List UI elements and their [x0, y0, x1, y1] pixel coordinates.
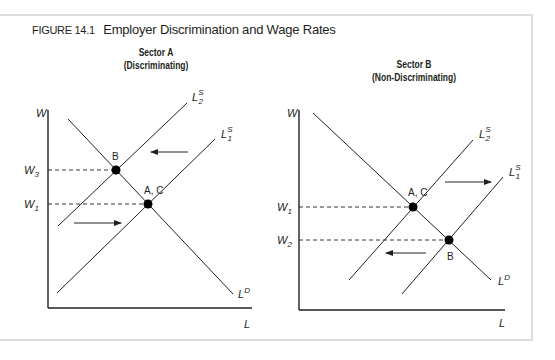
- panel-b-point-b-label: B: [447, 251, 454, 262]
- panel-b-supply-2-label: LS2: [479, 125, 491, 143]
- panel-b-chart: W L W1 W2 LS2 LS1 LD A, C B: [277, 107, 521, 329]
- panel-a-w3-label: W3: [24, 164, 39, 179]
- panel-a-point-ac: [144, 200, 153, 209]
- panel-a-supply-1-label: LS1: [221, 125, 233, 143]
- panel-b-x-label: L: [499, 317, 505, 329]
- panel-a-demand-label: LD: [238, 286, 250, 300]
- panel-b-w1-label: W1: [277, 201, 292, 216]
- panel-b-w2-label: W2: [277, 234, 292, 249]
- panel-a-w1-label: W1: [24, 198, 39, 213]
- panel-b-demand-label: LD: [498, 273, 510, 287]
- panel-a-point-ac-label: A, C: [144, 185, 163, 196]
- panel-a-point-b-label: B: [112, 151, 119, 162]
- panel-b-point-ac-label: A, C: [408, 187, 427, 198]
- panel-b-y-label: W: [287, 107, 299, 119]
- panel-a-supply-2-label: LS2: [192, 88, 204, 106]
- panel-a-point-b: [112, 166, 121, 175]
- panel-b-point-b: [445, 236, 454, 245]
- panel-b-demand-curve: [313, 113, 491, 280]
- diagram-canvas: W L W3 W1 LS2 LS1 LD B A, C W L: [0, 0, 555, 360]
- panel-a-supply-1-curve: [57, 139, 215, 293]
- panel-b-supply-1-label: LS1: [509, 163, 521, 181]
- panel-b-point-ac: [409, 203, 418, 212]
- panel-a-x-label: L: [244, 318, 250, 330]
- panel-a-supply-2-curve: [58, 103, 187, 226]
- panel-a-y-label: W: [36, 107, 48, 119]
- panel-a-chart: W L W3 W1 LS2 LS1 LD B A, C: [24, 88, 252, 330]
